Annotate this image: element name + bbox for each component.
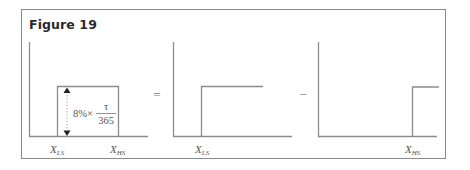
panel-2-step-ls: XLS	[173, 42, 292, 157]
formula-prefix: 8%×	[73, 108, 93, 119]
label-x-hs: XHS	[404, 143, 421, 157]
panel-1-pulse: 8%× τ 365 XLS XHS	[29, 42, 148, 157]
formula-denominator: 365	[98, 115, 114, 126]
minus-sign: −	[299, 87, 306, 102]
payoff-diagram: 8%× τ 365 XLS XHS = XLS − XHS	[0, 0, 470, 170]
arrow-up-icon	[64, 88, 71, 94]
equals-sign: =	[153, 87, 160, 102]
label-x-hs: XHS	[109, 143, 126, 157]
label-x-ls: XLS	[49, 143, 65, 157]
formula-numerator: τ	[104, 101, 108, 112]
panel-2-step-shape	[202, 87, 264, 137]
panel-3-step-hs: XHS	[318, 42, 439, 157]
panel-3-step-shape	[413, 87, 440, 137]
arrow-down-icon	[64, 131, 71, 137]
label-x-ls: XLS	[194, 143, 210, 157]
